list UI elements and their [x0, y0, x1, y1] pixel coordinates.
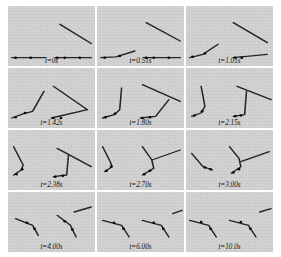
left-link-chain	[14, 147, 23, 175]
joint-marker	[143, 173, 146, 176]
simulation-frame: t=6.00s	[97, 192, 184, 252]
joint-marker	[15, 173, 18, 176]
joint-marker	[122, 227, 125, 230]
time-caption: t=6.00s	[97, 243, 184, 251]
free-bar-segment	[142, 85, 180, 102]
simulation-frame: t=0.51s	[97, 6, 184, 66]
free-bar-segment	[74, 207, 91, 212]
free-bar-segment	[60, 24, 91, 43]
free-bar-segment	[260, 209, 271, 212]
free-bar-segment	[146, 23, 180, 41]
free-bar-segment	[233, 23, 267, 43]
time-caption: t=1.42s	[8, 119, 95, 127]
left-link-chain	[103, 220, 129, 237]
simulation-frame: t=3.00s	[186, 130, 273, 190]
time-caption: t=4.00s	[8, 243, 95, 251]
free-bar-segment	[173, 210, 182, 213]
joint-marker	[61, 175, 64, 178]
figure-container: t=0st=0.51st=1.01st=1.42st=1.80st=2.15st…	[0, 0, 281, 257]
joint-marker	[149, 170, 152, 173]
simulation-frame: t=2.38s	[8, 130, 95, 190]
right-link-chain	[142, 147, 153, 175]
left-link-chain	[192, 153, 213, 170]
joint-marker	[238, 168, 241, 171]
joint-marker	[201, 110, 204, 113]
time-caption: t=0s	[8, 57, 95, 65]
right-link-chain	[141, 100, 169, 118]
joint-marker	[239, 114, 242, 117]
time-caption: t=1.01s	[186, 57, 273, 65]
free-bar-segment	[57, 148, 91, 166]
time-caption: t=2.70s	[97, 181, 184, 189]
right-link-chain	[52, 110, 88, 118]
time-caption: t=2.15s	[186, 119, 273, 127]
joint-marker	[105, 170, 108, 173]
simulation-frame: t=2.70s	[97, 130, 184, 190]
left-link-chain	[190, 44, 218, 57]
time-caption: t=1.80s	[97, 119, 184, 127]
left-link-chain	[12, 91, 44, 118]
right-link-chain	[230, 220, 256, 237]
time-caption: t=10.0s	[186, 243, 273, 251]
left-link-chain	[16, 219, 39, 236]
joint-marker	[203, 52, 206, 55]
joint-marker	[200, 221, 203, 224]
right-link-chain	[233, 91, 246, 116]
joint-marker	[193, 114, 196, 117]
simulation-frame: t=4.00s	[8, 192, 95, 252]
joint-marker	[239, 221, 242, 224]
joint-marker	[24, 112, 27, 115]
joint-marker	[152, 222, 155, 225]
joint-marker	[113, 222, 116, 225]
right-link-chain	[57, 215, 76, 237]
joint-marker	[25, 222, 28, 225]
simulation-frame: t=1.80s	[97, 68, 184, 128]
joint-marker	[232, 171, 235, 174]
simulation-frame: t=1.01s	[186, 6, 273, 66]
free-bar-segment	[152, 150, 180, 160]
right-link-chain	[53, 155, 68, 177]
joint-marker	[203, 166, 206, 169]
left-link-chain	[103, 88, 122, 118]
time-caption: t=0.51s	[97, 57, 184, 65]
joint-marker	[234, 115, 237, 118]
joint-marker	[63, 220, 66, 223]
joint-marker	[54, 175, 57, 178]
free-bar-segment	[53, 86, 87, 109]
joint-marker	[162, 227, 165, 230]
time-caption: t=3.00s	[186, 181, 273, 189]
left-link-chain	[190, 220, 216, 237]
simulation-frame: t=10.0s	[186, 192, 273, 252]
joint-marker	[114, 113, 117, 116]
simulation-frame: t=0s	[8, 6, 95, 66]
joint-marker	[71, 228, 74, 231]
right-link-chain	[142, 220, 168, 237]
simulation-frame: t=1.42s	[8, 68, 95, 128]
left-link-chain	[103, 147, 112, 172]
joint-marker	[249, 227, 252, 230]
free-bar-segment	[241, 152, 269, 162]
joint-marker	[21, 168, 24, 171]
joint-marker	[209, 227, 212, 230]
time-caption: t=2.38s	[8, 181, 95, 189]
panel-grid: t=0st=0.51st=1.01st=1.42st=1.80st=2.15st…	[8, 6, 273, 252]
joint-marker	[33, 227, 36, 230]
joint-marker	[110, 165, 113, 168]
joint-marker	[209, 168, 212, 171]
simulation-frame: t=2.15s	[186, 68, 273, 128]
free-bar-segment	[237, 86, 271, 99]
